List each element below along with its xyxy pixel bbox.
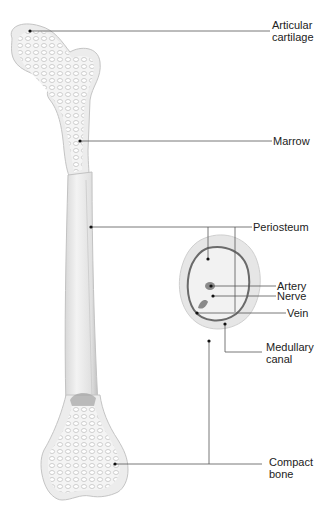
- label-articular-cartilage: Articular cartilage: [272, 19, 314, 43]
- label-line: bone: [269, 468, 313, 480]
- label-vein: Vein: [287, 307, 308, 319]
- label-line: Articular: [272, 19, 314, 31]
- label-line: Medullary: [266, 341, 314, 353]
- bone-lower-end: [41, 393, 128, 500]
- cross-section: [179, 235, 260, 329]
- label-periosteum: Periosteum: [253, 221, 309, 233]
- leader-medullary-canal: [225, 324, 262, 352]
- label-marrow: Marrow: [273, 135, 310, 147]
- label-nerve: Nerve: [277, 290, 306, 302]
- label-line: cartilage: [272, 31, 314, 43]
- label-compact-bone: Compact bone: [269, 456, 313, 480]
- label-line: Compact: [269, 456, 313, 468]
- bone-head: [11, 24, 100, 182]
- bone-shaft: [65, 172, 98, 408]
- leader-compact-bone-lower: [115, 341, 209, 464]
- label-line: canal: [266, 353, 314, 365]
- bone-diagram: [0, 0, 328, 515]
- label-medullary-canal: Medullary canal: [266, 341, 314, 365]
